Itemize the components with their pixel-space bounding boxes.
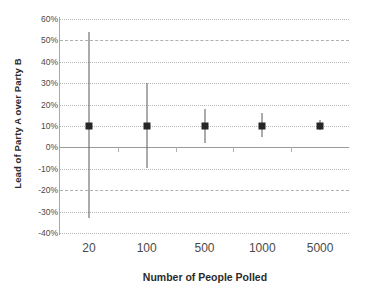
y-axis-tick-label: -20% <box>2 185 58 195</box>
gridline--20 <box>60 190 349 191</box>
y-axis-tick-label: 60% <box>2 14 58 24</box>
gridline--30 <box>60 212 349 213</box>
gridline-30 <box>60 83 349 84</box>
y-axis-tick-label: 10% <box>2 121 58 131</box>
gridline-40 <box>60 62 349 63</box>
data-point-marker <box>317 123 324 130</box>
y-axis-tick-label: 40% <box>2 57 58 67</box>
data-point-marker <box>201 123 208 130</box>
y-axis-tick-labels: 60%50%40%30%20%10%0%-10%-20%-30%-40% <box>0 0 58 299</box>
y-axis-tick-label: -30% <box>2 207 58 217</box>
plot-area <box>60 19 349 233</box>
data-point-marker <box>143 123 150 130</box>
y-axis-tick-label: 0% <box>2 142 58 152</box>
y-axis-tick-label: 50% <box>2 35 58 45</box>
y-axis-tick-label: -40% <box>2 228 58 238</box>
error-bar-chart: Lead of Party A over Party B 60%50%40%30… <box>0 0 371 299</box>
x-axis-tick-mark <box>233 147 234 152</box>
y-axis-tick-label: 30% <box>2 78 58 88</box>
x-axis-tick-mark <box>176 147 177 152</box>
data-point-marker <box>85 123 92 130</box>
y-axis-tick-label: -10% <box>2 164 58 174</box>
gridline--10 <box>60 169 349 170</box>
gridline--40 <box>60 233 349 234</box>
x-axis-tick-mark <box>291 147 292 152</box>
data-point-marker <box>259 123 266 130</box>
x-axis-tick-mark <box>118 147 119 152</box>
x-axis-tick-label: 5000 <box>285 241 355 255</box>
y-axis-tick-label: 20% <box>2 100 58 110</box>
gridline-60 <box>60 19 349 20</box>
gridline-50 <box>60 40 349 41</box>
gridline-20 <box>60 105 349 106</box>
zero-baseline <box>60 147 349 148</box>
x-axis-title: Number of People Polled <box>60 271 350 283</box>
